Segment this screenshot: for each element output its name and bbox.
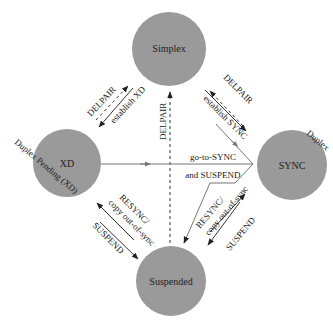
node-sync-label: SYNC bbox=[279, 160, 306, 171]
label-delpair-right: DELPAIR bbox=[222, 72, 255, 105]
label-suspend-left: SUSPEND bbox=[91, 220, 127, 256]
node-suspended: Suspended bbox=[136, 246, 206, 316]
node-xd-label: XD bbox=[60, 158, 74, 169]
node-simplex: Simplex bbox=[132, 12, 206, 86]
state-diagram: Simplex XD SYNC Suspended Duplex Pending… bbox=[0, 0, 333, 328]
node-suspended-label: Suspended bbox=[149, 276, 192, 287]
node-simplex-label: Simplex bbox=[152, 43, 185, 54]
label-suspend-right: SUSPEND bbox=[224, 215, 258, 252]
label-goto-sync: go-to-SYNC bbox=[190, 152, 236, 162]
label-and-suspend: and SUSPEND bbox=[185, 170, 241, 180]
label-delpair-center: DELPAIR bbox=[158, 103, 168, 140]
